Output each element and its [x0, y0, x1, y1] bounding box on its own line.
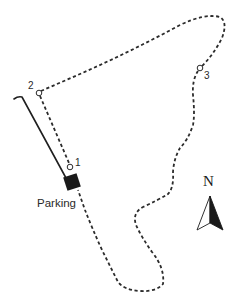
waypoint-2-label: 2 [28, 80, 34, 91]
trail-loop [41, 16, 225, 291]
waypoint-1-marker[interactable] [67, 164, 73, 170]
parking-lot-icon [63, 173, 81, 191]
north-arrow-icon: N [197, 173, 223, 230]
access-road [14, 97, 66, 178]
waypoint-2-marker[interactable] [36, 90, 42, 96]
north-label: N [203, 173, 214, 189]
trail-map: Parking 1 2 3 N [0, 0, 247, 303]
waypoint-1-label: 1 [75, 157, 81, 168]
waypoint-3-label: 3 [204, 70, 210, 81]
trail-connector [40, 96, 69, 163]
parking-label: Parking [37, 197, 76, 209]
waypoint-3-marker[interactable] [197, 65, 203, 71]
